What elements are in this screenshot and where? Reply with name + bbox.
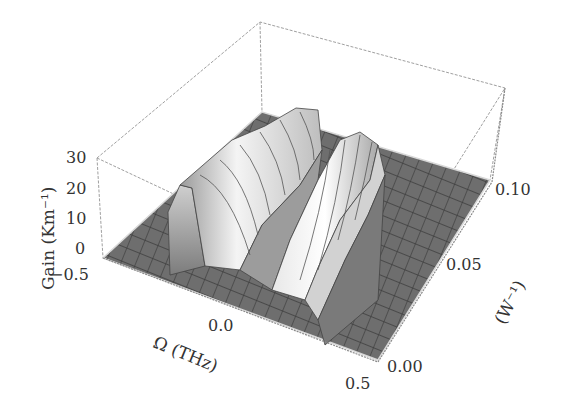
y-tick-10: 0.10 (495, 180, 531, 199)
surface-plot (0, 0, 561, 412)
z-tick-0: 0 (75, 239, 85, 258)
x-tick-pos: 0.5 (345, 374, 370, 393)
z-tick-10: 10 (66, 209, 86, 228)
y-tick-05: 0.05 (446, 255, 482, 274)
y-tick-0: 0.00 (387, 357, 423, 376)
x-tick-neg: −0.5 (50, 265, 89, 284)
z-tick-30: 30 (66, 148, 86, 167)
z-tick-20: 20 (66, 179, 86, 198)
x-tick-0: 0.0 (208, 316, 233, 335)
